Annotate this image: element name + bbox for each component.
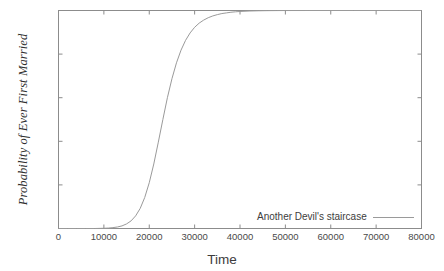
axes-frame: [59, 11, 422, 229]
x-tick-label: 50000: [272, 231, 298, 242]
y-tick-marks: [59, 11, 422, 229]
x-tick-label: 0: [56, 231, 61, 242]
legend-entry-label: Another Devil's staircase: [257, 211, 367, 222]
y-axis-label: Probability of Ever First Married: [16, 5, 31, 235]
series-line-another-devils-staircase: [59, 11, 422, 229]
x-tick-label: 70000: [363, 231, 389, 242]
x-tick-marks: [59, 11, 422, 229]
x-tick-label: 60000: [318, 231, 344, 242]
x-tick-label: 30000: [181, 231, 207, 242]
data-series-group: [59, 11, 422, 229]
x-tick-label: 40000: [227, 231, 253, 242]
chart-figure: Probability of Ever First Married Time A…: [0, 0, 444, 271]
x-tick-label: 80000: [408, 231, 434, 242]
x-tick-label: 20000: [136, 231, 162, 242]
x-axis-label: Time: [0, 252, 444, 267]
plot-frame: [59, 11, 422, 229]
x-tick-label: 10000: [91, 231, 117, 242]
